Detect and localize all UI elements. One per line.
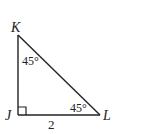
side-KL xyxy=(18,35,100,115)
vertex-label-K: K xyxy=(10,20,21,35)
angle-label-K: 45° xyxy=(22,54,39,68)
right-angle-marker xyxy=(18,107,26,115)
vertex-label-J: J xyxy=(5,108,12,123)
angle-label-L: 45° xyxy=(70,101,87,115)
vertex-label-L: L xyxy=(102,108,111,123)
side-length-JL: 2 xyxy=(48,117,55,132)
triangle-diagram: K J L 45° 45° 2 xyxy=(0,0,143,134)
